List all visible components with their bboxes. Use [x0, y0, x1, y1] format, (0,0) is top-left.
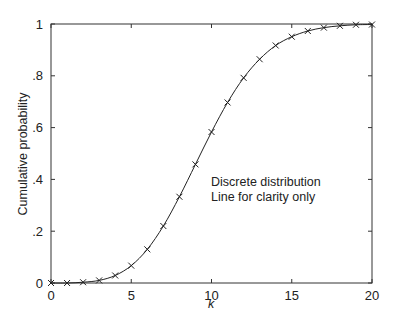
plot-frame	[51, 24, 372, 283]
x-marker	[225, 99, 231, 105]
x-axis-label: k	[208, 297, 215, 311]
x-axis-ticks: 05101520	[47, 24, 379, 303]
x-marker	[112, 272, 118, 278]
y-tick-label: .6	[32, 120, 43, 135]
x-marker	[289, 34, 295, 40]
x-marker	[160, 223, 166, 229]
x-tick-label: 20	[365, 288, 379, 303]
y-tick-label: .4	[32, 172, 43, 187]
annotation-line-1: Discrete distribution	[211, 175, 321, 189]
x-tick-label: 0	[47, 288, 54, 303]
x-marker	[128, 263, 134, 269]
x-marker	[144, 246, 150, 252]
y-axis-ticks: 0.2.4.6.81	[32, 17, 372, 291]
annotation-line-2: Line for clarity only	[211, 190, 316, 204]
cdf-line	[51, 25, 372, 284]
x-marker	[305, 28, 311, 34]
y-axis-label: Cumulative probability	[16, 92, 30, 216]
x-marker	[192, 161, 198, 167]
x-marker	[209, 129, 215, 135]
y-tick-label: 1	[36, 17, 43, 32]
cumulative-probability-chart: 0.2.4.6.81 05101520 Cumulative probabili…	[0, 0, 396, 325]
x-marker	[176, 194, 182, 200]
x-tick-label: 5	[128, 288, 135, 303]
x-tick-label: 15	[285, 288, 299, 303]
x-marker	[257, 56, 263, 62]
y-tick-label: 0	[36, 276, 43, 291]
data-point-markers	[48, 22, 375, 286]
y-tick-label: .8	[32, 68, 43, 83]
y-tick-label: .2	[32, 224, 43, 239]
x-marker	[273, 42, 279, 48]
x-marker	[241, 75, 247, 81]
